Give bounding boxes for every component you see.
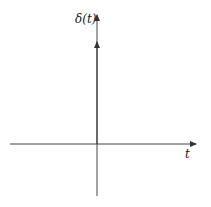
impulse-diagram: [0, 0, 211, 207]
y-axis-label: δ(t): [75, 13, 96, 25]
x-axis-label: t: [185, 148, 190, 160]
